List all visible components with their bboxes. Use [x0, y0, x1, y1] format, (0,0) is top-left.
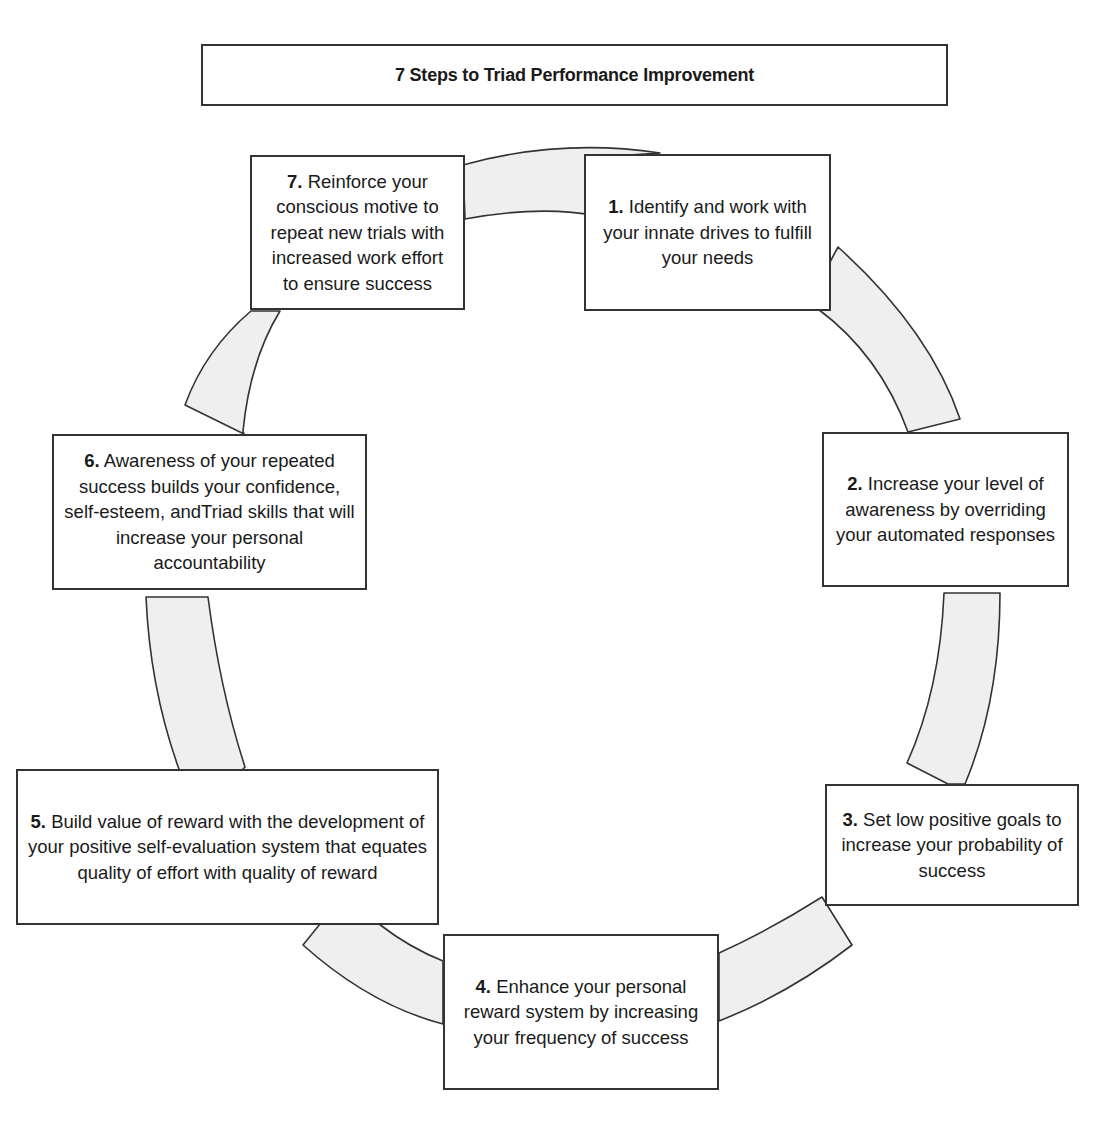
step-2-box: 2. Increase your level of awareness by o… [822, 432, 1069, 587]
step-2-content: 2. Increase your level of awareness by o… [834, 471, 1057, 548]
arc-connector-6-7 [185, 311, 280, 434]
step-7-content: 7. Reinforce your conscious motive to re… [262, 169, 453, 297]
step-3-content: 3. Set low positive goals to increase yo… [837, 807, 1067, 884]
step-4-text: Enhance your personal reward system by i… [464, 976, 698, 1048]
arc-connector-2-3 [907, 593, 1000, 784]
step-5-content: 5. Build value of reward with the develo… [28, 809, 427, 886]
diagram-title: 7 Steps to Triad Performance Improvement [201, 44, 948, 106]
step-3-box: 3. Set low positive goals to increase yo… [825, 784, 1079, 906]
step-1-box: 1. Identify and work with your innate dr… [584, 154, 831, 311]
step-7-box: 7. Reinforce your conscious motive to re… [250, 155, 465, 310]
step-4-content: 4. Enhance your personal reward system b… [455, 974, 707, 1051]
step-4-number: 4. [476, 976, 491, 997]
step-3-number: 3. [842, 809, 857, 830]
step-6-content: 6. Awareness of your repeated success bu… [64, 448, 355, 576]
step-1-content: 1. Identify and work with your innate dr… [596, 194, 819, 271]
arc-connector-4-5 [303, 924, 443, 1024]
step-2-text: Increase your level of awareness by over… [836, 473, 1055, 545]
step-2-number: 2. [847, 473, 862, 494]
step-4-box: 4. Enhance your personal reward system b… [443, 934, 719, 1090]
step-3-text: Set low positive goals to increase your … [841, 809, 1062, 881]
step-5-text: Build value of reward with the developme… [28, 811, 427, 883]
step-6-number: 6. [84, 450, 99, 471]
arc-connector-1-2 [818, 247, 960, 432]
step-7-number: 7. [287, 171, 302, 192]
step-1-text: Identify and work with your innate drive… [603, 196, 812, 268]
step-1-number: 1. [608, 196, 623, 217]
step-6-text: Awareness of your repeated success build… [64, 450, 354, 573]
step-6-box: 6. Awareness of your repeated success bu… [52, 434, 367, 590]
step-5-box: 5. Build value of reward with the develo… [16, 769, 439, 925]
arc-connector-5-6 [146, 597, 245, 772]
step-5-number: 5. [31, 811, 46, 832]
arc-connector-3-4 [719, 897, 852, 1021]
